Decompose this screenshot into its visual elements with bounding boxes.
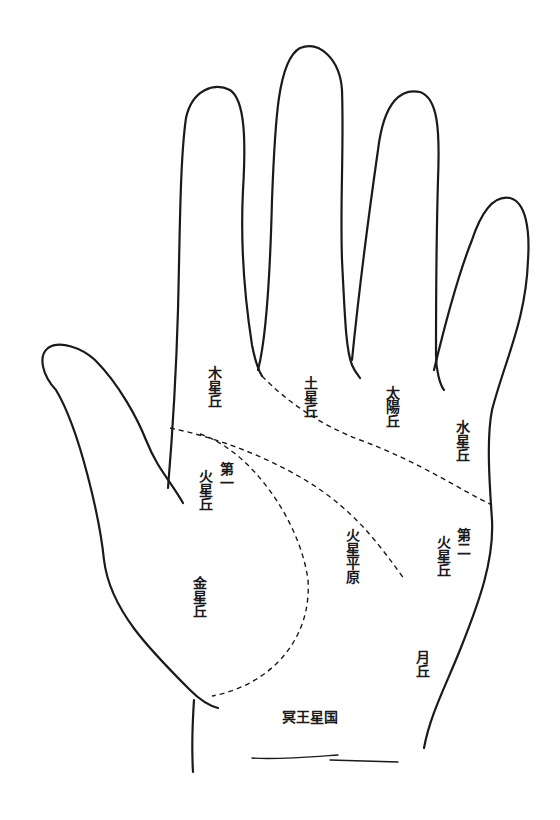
label-mercury-mount: 水星丘 <box>454 420 469 462</box>
label-venus-mount: 金星丘 <box>191 576 206 618</box>
label-moon-mount: 月丘 <box>414 650 429 678</box>
label-first-mars-mount: 火星丘 <box>197 469 212 511</box>
little-finger-outline <box>424 198 528 748</box>
hand-diagram <box>0 0 560 820</box>
label-pluto: 冥王星国 <box>282 710 338 725</box>
label-second-mars-mount: 火星丘 <box>435 535 450 577</box>
thumb-outline <box>42 345 218 708</box>
left-wrist-outline <box>192 700 194 772</box>
middle-finger-outline <box>258 46 360 378</box>
ring-finger-outline <box>352 91 444 390</box>
wrist-crease-1 <box>252 755 338 759</box>
index-finger-outline <box>168 87 262 488</box>
label-second-mars-prefix: 第二 <box>455 528 470 556</box>
venus-boundary <box>200 434 308 696</box>
wrist-crease-2 <box>330 760 398 762</box>
label-first-mars-prefix: 第一 <box>218 462 233 490</box>
label-saturn-mount: 土星丘 <box>302 376 317 418</box>
label-mars-plain: 火星平原 <box>344 528 359 584</box>
label-sun-mount: 太陽丘 <box>384 386 399 428</box>
label-jupiter-mount: 木星丘 <box>206 366 221 408</box>
